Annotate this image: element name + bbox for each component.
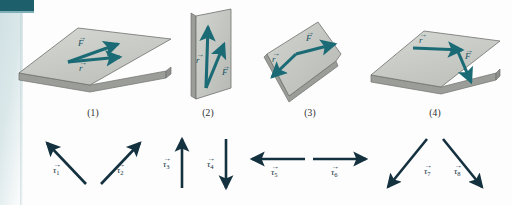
tau-7-label: →τ7 <box>424 164 432 177</box>
panel-1-radius-label: →r <box>79 61 87 73</box>
figure-root: →F →r →r →F →F →r →r →F (1) (2) (3) (4) … <box>0 0 512 205</box>
panel-2-force-label: →F <box>222 65 230 77</box>
panel-2-caption: (2) <box>188 108 228 118</box>
torque-arrows <box>47 139 482 188</box>
tau-4-label: →τ4 <box>207 157 215 170</box>
tau-8-arrow <box>443 139 482 187</box>
tau-5-label: →τ5 <box>271 165 279 178</box>
panel-2-radius-label: →r <box>196 53 204 65</box>
panel-3-caption: (3) <box>290 108 330 118</box>
tau-2-label: →τ2 <box>117 163 125 176</box>
tau-1-label: →τ1 <box>53 163 61 176</box>
panel-4-radius-arrow <box>413 48 462 50</box>
tau-6-label: →τ6 <box>331 165 339 178</box>
tau-3-label: →τ3 <box>163 157 171 170</box>
panel-4-plate <box>371 31 500 94</box>
tau-7-arrow <box>388 139 427 187</box>
panel-2-radius-arrow <box>206 27 208 88</box>
figure-graphics <box>0 0 512 205</box>
panel-4-caption: (4) <box>415 108 455 118</box>
panel-4-force-label: →F <box>465 49 473 61</box>
panel-1-caption: (1) <box>73 108 113 118</box>
panel-3-radius-label: →r <box>272 52 280 64</box>
panel-3-force-label: →F <box>306 31 314 43</box>
panel-1-force-label: →F <box>78 36 86 48</box>
panel-4-radius-label: →r <box>419 33 427 45</box>
tau-8-label: →τ8 <box>454 164 462 177</box>
